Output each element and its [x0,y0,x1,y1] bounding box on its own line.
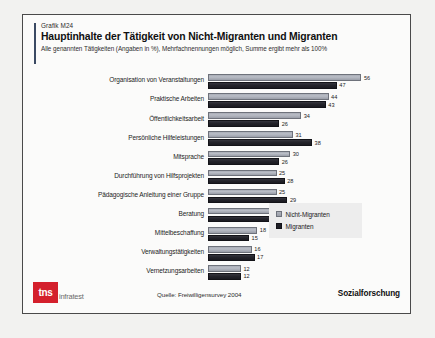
bar-nicht-migranten [208,74,361,81]
bar-migranten [208,235,249,242]
bar-value-label: 56 [364,74,370,82]
bar-line: 30 [208,151,411,158]
category-label: Vernetzungsarbeiten [23,266,204,275]
bar-group: 3026 [208,151,411,167]
legend-label-nicht-migranten: Nicht-Migranten [286,211,330,218]
bar-value-label: 16 [254,245,260,253]
chart-row: Persönliche Hilfeleistungen3138 [23,129,411,148]
source-note: Quelle: Freiwilligensurvey 2004 [157,291,241,298]
bar-nicht-migranten [208,227,257,234]
category-label: Persönliche Hilfeleistungen [23,133,204,142]
bar-migranten [208,254,255,261]
category-label: Pädagogische Anleitung einer Gruppe [23,190,204,199]
bar-line: 38 [208,139,411,146]
bar-group: 2528 [208,170,411,186]
category-label: Praktische Arbeiten [23,94,204,103]
bar-migranten [208,82,337,89]
bar-line: 12 [208,265,411,272]
bar-line: 17 [208,254,411,261]
bar-value-label: 12 [243,265,249,273]
chart-card: Grafik M24 Hauptinhalte der Tätigkeit vo… [22,14,411,314]
bar-value-label: 34 [304,112,310,120]
category-label: Mitsprache [23,152,204,161]
bar-value-label: 18 [260,226,266,234]
bar-chart-plot-area: Organisation von Veranstaltungen5647Prak… [23,72,411,282]
bar-migranten [208,101,326,108]
bar-line: 16 [208,246,411,253]
bar-line: 26 [208,158,411,165]
chart-subtitle: Alle genannten Tätigkeiten (Angaben in %… [41,44,402,54]
title-accent-bar [34,23,36,64]
bar-migranten [208,273,241,280]
category-label: Verwaltungstätigkeiten [23,247,204,256]
bar-migranten [208,178,285,185]
category-label: Öffentlichkeitsarbeit [23,114,204,123]
chart-row: Öffentlichkeitsarbeit3426 [23,110,411,129]
bar-value-label: 28 [287,177,293,185]
bar-nicht-migranten [208,170,277,177]
bar-group: 4443 [208,93,411,109]
legend-swatch-icon-nicht-migranten [276,211,282,217]
bar-migranten [208,158,279,165]
bar-line: 26 [208,120,411,127]
division-label: Sozialforschung [338,289,400,298]
bar-line: 28 [208,178,411,185]
bar-line: 31 [208,131,411,138]
bar-group: 3138 [208,131,411,147]
tns-infratest-logo: tns infratest [33,282,84,303]
scanned-page-background: Grafik M24 Hauptinhalte der Tätigkeit vo… [0,0,435,338]
bar-line: 12 [208,273,411,280]
bar-group: 5647 [208,74,411,90]
legend-swatch-icon-migranten [276,223,282,229]
bar-value-label: 47 [339,81,345,89]
chart-row: Praktische Arbeiten4443 [23,91,411,110]
tns-logo-mark-text: tns [39,288,53,298]
bar-line: 47 [208,82,411,89]
tns-logo-word: infratest [59,292,84,301]
bar-line: 25 [208,189,411,196]
bar-line: 34 [208,112,411,119]
bar-line: 43 [208,101,411,108]
grafik-id: Grafik M24 [41,21,402,30]
chart-footer: tns infratest Quelle: Freiwilligensurvey… [23,280,411,308]
bar-value-label: 44 [331,93,337,101]
legend-item-migranten: Migranten [276,220,356,232]
tns-logo-mark-icon: tns [33,282,58,303]
chart-row: Durchführung von Hilfsprojekten2528 [23,167,411,186]
bar-migranten [208,139,312,146]
bar-value-label: 26 [282,158,288,166]
chart-row: Mitsprache3026 [23,148,411,167]
category-label: Durchführung von Hilfsprojekten [23,171,204,180]
bar-value-label: 25 [279,188,285,196]
bar-nicht-migranten [208,93,329,100]
bar-group: 1617 [208,246,411,262]
bar-line: 44 [208,93,411,100]
bar-nicht-migranten [208,208,277,215]
bar-value-label: 38 [315,139,321,147]
legend-label-migranten: Migranten [286,223,314,230]
bar-nicht-migranten [208,151,290,158]
bar-nicht-migranten [208,131,293,138]
bar-nicht-migranten [208,189,277,196]
chart-title: Hauptinhalte der Tätigkeit von Nicht-Mig… [41,30,402,44]
bar-value-label: 43 [328,101,334,109]
bar-value-label: 17 [257,253,263,261]
bar-group: 1212 [208,265,411,281]
bar-group: 3426 [208,112,411,128]
bar-value-label: 30 [293,150,299,158]
bar-value-label: 26 [282,120,288,128]
bar-value-label: 31 [295,131,301,139]
bar-migranten [208,120,279,127]
category-label: Organisation von Veranstaltungen [23,75,204,84]
bar-nicht-migranten [208,265,241,272]
chart-header: Grafik M24 Hauptinhalte der Tätigkeit vo… [34,21,402,54]
chart-row: Organisation von Veranstaltungen5647 [23,72,411,91]
category-label: Beratung [23,209,204,218]
bar-value-label: 25 [279,169,285,177]
bar-nicht-migranten [208,112,301,119]
chart-legend: Nicht-Migranten Migranten [269,203,362,238]
bar-line: 25 [208,170,411,177]
category-label: Mittelbeschaffung [23,228,204,237]
chart-row: Verwaltungstätigkeiten1617 [23,244,411,263]
bar-nicht-migranten [208,246,252,253]
